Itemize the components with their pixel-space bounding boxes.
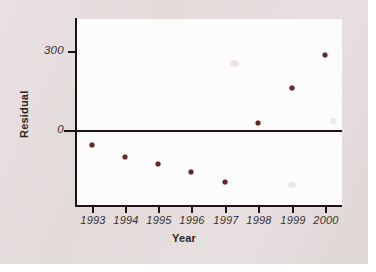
scatter-point <box>123 155 128 160</box>
x-axis-title: Year <box>0 232 368 244</box>
x-axis-line <box>75 205 342 207</box>
x-axis-tick <box>325 206 327 213</box>
y-axis-tick-label: 300 <box>22 44 64 56</box>
x-axis-tick <box>292 206 294 213</box>
y-axis-line <box>75 18 77 207</box>
scatter-point <box>256 121 261 126</box>
x-axis-tick-label: 1994 <box>113 214 138 226</box>
zero-reference-line <box>64 130 342 132</box>
y-axis-tick <box>68 51 76 53</box>
scatter-point <box>156 162 161 167</box>
x-axis-tick <box>158 206 160 213</box>
x-axis-tick-label: 2000 <box>313 214 338 226</box>
scatter-point <box>323 53 328 58</box>
x-axis-tick-label: 1998 <box>246 214 271 226</box>
y-axis-title: Residual <box>16 74 32 154</box>
x-axis-tick <box>191 206 193 213</box>
chart-screenshot: 300 0 1993 1994 1995 1996 1997 1998 1999… <box>0 0 376 272</box>
scatter-point <box>223 180 228 185</box>
scatter-point <box>290 86 295 91</box>
scatter-point <box>90 143 95 148</box>
x-axis-tick <box>258 206 260 213</box>
x-axis-tick-label: 1995 <box>146 214 171 226</box>
plot-area <box>76 19 342 206</box>
x-axis-tick-label: 1997 <box>213 214 238 226</box>
x-axis-tick-label: 1996 <box>179 214 204 226</box>
x-axis-tick <box>92 206 94 213</box>
x-axis-tick-label: 1993 <box>80 214 105 226</box>
x-axis-tick <box>225 206 227 213</box>
y-axis-tick <box>68 130 76 132</box>
scatter-point <box>189 170 194 175</box>
x-axis-tick-label: 1999 <box>280 214 305 226</box>
x-axis-tick <box>125 206 127 213</box>
